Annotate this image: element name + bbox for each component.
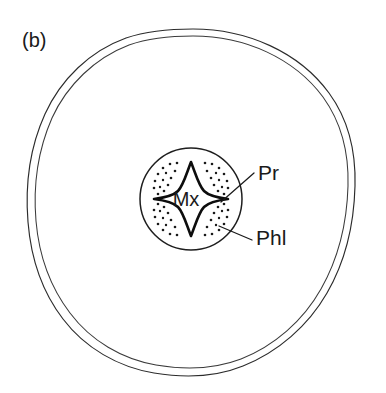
protoxylem-label: Pr <box>258 161 279 184</box>
phloem-patch-lower-right <box>204 203 230 237</box>
leader-lines-group <box>219 173 254 240</box>
figure-panel-b: (b) Mx Pr Phl <box>0 0 386 393</box>
phloem-label: Phl <box>256 226 286 249</box>
root-cross-section-diagram: (b) Mx Pr Phl <box>0 0 386 393</box>
phloem-patch-upper-right <box>204 162 230 196</box>
panel-label: (b) <box>22 29 46 51</box>
metaxylem-label: Mx <box>173 188 200 210</box>
